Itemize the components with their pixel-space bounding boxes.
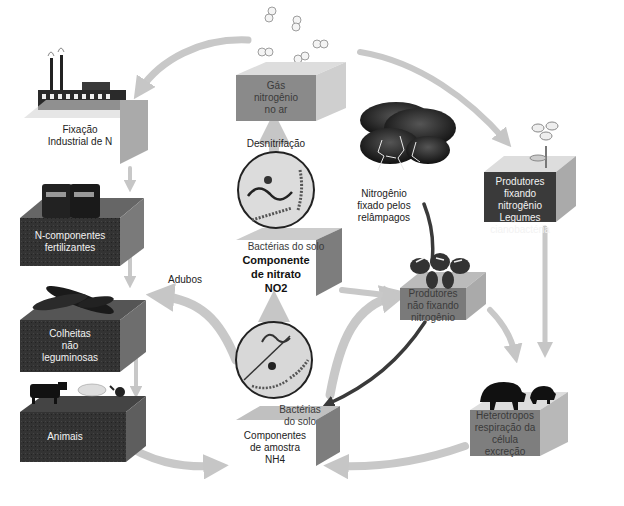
label-line: Heterotropos (470, 410, 540, 422)
label-animals: Animais (30, 431, 100, 443)
label-line: Legumes (484, 212, 556, 224)
label-line: nitrogênio (236, 92, 316, 104)
label-line: não (20, 340, 120, 352)
label-line: Fixação (30, 124, 130, 136)
label-ammonium-component: Componentes de amostra NH4 (232, 430, 318, 466)
label-line: fertilizantes (20, 242, 120, 254)
label-fixing-producers: Produtores fixando nitrogênio Legumes ci… (484, 176, 556, 236)
label-nitrate-component: Componente de nitrato NO2 (236, 253, 316, 295)
label-line: leguminosas (20, 352, 120, 364)
label-line: NO2 (236, 281, 316, 295)
box-animals (20, 382, 146, 462)
arrow-gas-to-industrial (140, 40, 248, 90)
label-line: de nitrato (236, 267, 316, 281)
label-line: relâmpagos (344, 212, 424, 224)
storm-cloud-icon (360, 102, 456, 170)
label-industrial-fixation: Fixação Industrial de N (30, 124, 130, 148)
label-line: excreção (470, 446, 540, 458)
label-line: de amostra (232, 442, 318, 454)
label-soil-bacteria-nitrate: Bactérias do solo (236, 241, 336, 253)
label-line: Gás (236, 80, 316, 92)
label-line: respiração da (470, 422, 540, 434)
label-line: Produtores fixando (484, 176, 556, 200)
label-line: Colheitas (20, 328, 120, 340)
label-line: Componente (236, 253, 316, 267)
label-heterotrophs: Heterotropos respiração da célula excreç… (470, 410, 540, 458)
label-denitrification: Desnitrifação (236, 138, 316, 150)
label-line: nitrogênio (400, 312, 466, 324)
label-line: fixado pelos (344, 200, 424, 212)
label-lightning-fixation: Nitrogênio fixado pelos relâmpagos (344, 188, 424, 224)
label-line: Componentes (232, 430, 318, 442)
label-line: cianobactéria (484, 224, 556, 236)
arrow-nitrate-to-producers (342, 290, 392, 296)
label-line: N-componentes (20, 230, 120, 242)
arrow-ammonium-to-producers (330, 296, 395, 395)
label-line: Produtores (400, 288, 466, 300)
arrow-nonfixing-to-heterotrophs (490, 310, 515, 354)
arrow-lightning-to-producers (424, 204, 433, 262)
label-line: Bactérias (270, 404, 330, 416)
nitrogen-cycle-diagram: Fixação Industrial de N N-componentes fe… (0, 0, 624, 506)
arrow-heterotrophs-to-ammonium (336, 446, 465, 466)
label-line: do solo (270, 416, 330, 428)
label-soil-bacteria-ammonium: Bactérias do solo (270, 404, 330, 428)
label-line: Industrial de N (30, 136, 130, 148)
label-line: NH4 (232, 454, 318, 466)
label-line: nitrogênio (484, 200, 556, 212)
label-line: célula (470, 434, 540, 446)
nitrogen-molecules-icon (258, 7, 328, 63)
label-fertilizer: N-componentes fertilizantes (20, 230, 120, 254)
label-crops: Colheitas não leguminosas (20, 328, 120, 364)
label-gas: Gás nitrogênio no ar (236, 80, 316, 116)
arrow-producers-to-ammonium (328, 322, 425, 404)
label-line: Nitrogênio (344, 188, 424, 200)
label-line: no ar (236, 104, 316, 116)
label-manure: Adubos (160, 274, 210, 286)
arrow-manure (160, 296, 236, 360)
label-line: não fixando (400, 300, 466, 312)
label-non-fixing-producers: Produtores não fixando nitrogênio (400, 288, 466, 324)
